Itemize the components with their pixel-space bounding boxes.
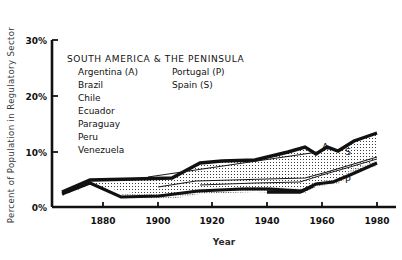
legend-title: SOUTH AMERICA & THE PENINSULA xyxy=(67,54,245,64)
band-fill-upper xyxy=(62,134,377,196)
x-tick-label-1980: 1980 xyxy=(364,216,389,226)
y-tick-label-20: 20% xyxy=(25,92,47,102)
chart-plot-area: 30% 20% 10% 0% 1880 1900 1920 1940 1960 … xyxy=(0,0,402,260)
y-tick-label-10: 10% xyxy=(25,148,47,158)
x-axis-title: Year xyxy=(212,237,236,247)
x-tick-label-1960: 1960 xyxy=(309,216,334,226)
chart-legend: SOUTH AMERICA & THE PENINSULA Argentina … xyxy=(67,54,245,155)
legend-item-venezuela: Venezuela xyxy=(78,145,124,155)
series-annotation-S: S xyxy=(345,146,351,157)
legend-item-paraguay: Paraguay xyxy=(78,119,121,129)
x-tick-label-1940: 1940 xyxy=(254,216,279,226)
legend-item-chile: Chile xyxy=(78,93,101,103)
legend-item-portugal: Portugal (P) xyxy=(172,67,225,77)
series-annotation-P: P xyxy=(345,174,351,185)
x-tick-label-1900: 1900 xyxy=(145,216,170,226)
chart-figure: 30% 20% 10% 0% 1880 1900 1920 1940 1960 … xyxy=(0,0,402,260)
series-annotation-A: A xyxy=(322,141,329,152)
legend-item-ecuador: Ecuador xyxy=(78,106,115,116)
x-tick-label-1920: 1920 xyxy=(199,216,224,226)
legend-item-brazil: Brazil xyxy=(78,80,103,90)
y-axis-title: Percent of Population in Regulatory Sect… xyxy=(6,27,16,223)
legend-item-spain: Spain (S) xyxy=(172,80,213,90)
legend-item-argentina: Argentina (A) xyxy=(78,67,138,77)
legend-item-peru: Peru xyxy=(78,132,98,142)
y-tick-label-0: 0% xyxy=(32,203,47,213)
x-tick-label-1880: 1880 xyxy=(90,216,115,226)
y-tick-label-30: 30% xyxy=(25,36,47,46)
